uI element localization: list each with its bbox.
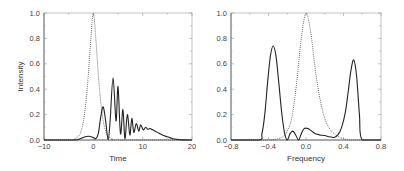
x-axis-label: Time <box>109 154 127 163</box>
y-axis-label: Intensity <box>16 62 25 92</box>
y-tick-label: 0.2 <box>30 110 40 119</box>
figure: 0.00.20.40.60.81.0−1001020TimeIntensity … <box>0 0 404 171</box>
y-tick-label: 1.0 <box>30 9 40 18</box>
time-domain-plot: 0.00.20.40.60.81.0−1001020TimeIntensity <box>16 9 196 164</box>
y-tick-label: 0.4 <box>217 85 227 94</box>
plot-frame <box>44 13 192 140</box>
y-tick-label: 0.6 <box>217 59 227 68</box>
x-tick-label: 10 <box>138 142 146 151</box>
y-tick-label: 1.0 <box>217 9 227 18</box>
x-tick-label: 0.8 <box>376 142 386 151</box>
solid-series-line <box>231 46 381 140</box>
plot-frame <box>231 13 381 140</box>
dotted-series-line <box>44 13 192 140</box>
y-tick-label: 0.4 <box>30 85 40 94</box>
y-tick-label: 0.6 <box>30 59 40 68</box>
dotted-series-line <box>231 13 381 140</box>
x-tick-label: 20 <box>188 142 196 151</box>
x-tick-label: −10 <box>38 142 51 151</box>
x-tick-label: 0.0 <box>301 142 311 151</box>
x-tick-label: 0.4 <box>338 142 348 151</box>
x-axis-label: Frequency <box>287 154 325 163</box>
y-tick-label: 0.8 <box>217 34 227 43</box>
x-tick-label: −0.4 <box>261 142 276 151</box>
x-tick-label: 0 <box>91 142 95 151</box>
x-tick-label: −0.8 <box>224 142 239 151</box>
y-tick-label: 0.8 <box>30 34 40 43</box>
frequency-domain-plot: 0.00.20.40.60.81.0−0.8−0.40.00.40.8Frequ… <box>217 9 387 164</box>
solid-series-line <box>44 78 192 140</box>
y-tick-label: 0.2 <box>217 110 227 119</box>
